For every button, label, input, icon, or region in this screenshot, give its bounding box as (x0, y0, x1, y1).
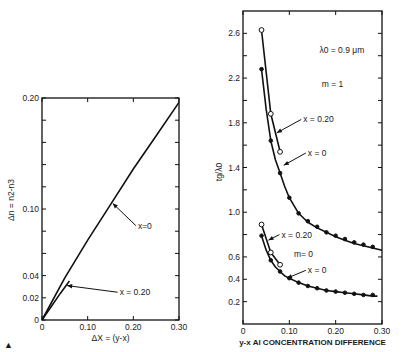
open-circle-marker (268, 111, 273, 116)
figure-marker: ▲ (4, 340, 13, 350)
x-axis-label: ΔX = (y-x) (91, 333, 129, 343)
filled-circle-marker (278, 270, 282, 274)
x-tick-label: 0.30 (374, 326, 391, 336)
annotation-arrow (67, 286, 118, 293)
y-tick-label: 0 (34, 315, 39, 325)
filled-circle-marker (269, 139, 273, 143)
figure-canvas: 00.100.200.3000.020.040.100.20ΔX = (y-x)… (0, 0, 402, 352)
annotation-label: x = 0 (308, 265, 327, 275)
x-tick-label: 0.30 (171, 322, 188, 332)
series-line (262, 69, 383, 250)
annotation-label: x = 0.20 (120, 287, 151, 297)
arrowhead-icon (67, 284, 72, 288)
series-line (42, 281, 69, 320)
y-tick-label: 0.4 (228, 274, 240, 284)
data-series (260, 67, 382, 250)
filled-circle-marker (352, 292, 356, 296)
open-circle-marker (278, 149, 283, 154)
filled-circle-marker (306, 219, 310, 223)
y-axis-label: tg/λ0 (214, 163, 224, 182)
annotation-label: m= 0 (294, 249, 313, 259)
filled-circle-marker (334, 290, 338, 294)
y-tick-label: 0.6 (228, 252, 240, 262)
y-tick-label: 1.4 (228, 163, 240, 173)
right-chart: 00.100.200.300.20.40.61.01.41.82.22.6y-x… (214, 11, 391, 347)
filled-circle-marker (343, 291, 347, 295)
annotation-label: x = 0.20 (281, 230, 312, 240)
filled-circle-marker (260, 67, 264, 71)
filled-circle-marker (278, 171, 282, 175)
x-tick-label: 0.10 (79, 322, 96, 332)
y-tick-label: 2.6 (228, 28, 240, 38)
annotation-label: m = 1 (322, 79, 344, 89)
y-axis-label: Δn = n2-n3 (6, 179, 16, 221)
y-tick-label: 0.10 (22, 204, 39, 214)
filled-circle-marker (371, 245, 375, 249)
y-tick-label: 0.2 (228, 297, 240, 307)
filled-circle-marker (334, 234, 338, 238)
filled-circle-marker (343, 237, 347, 241)
x-tick-label: 0 (40, 322, 45, 332)
filled-circle-marker (269, 258, 273, 262)
y-tick-label: 2.2 (228, 73, 240, 83)
y-tick-label: 1.8 (228, 118, 240, 128)
data-series (42, 281, 69, 320)
filled-circle-marker (352, 241, 356, 245)
filled-circle-marker (315, 225, 319, 229)
y-tick-label: 1.0 (228, 207, 240, 217)
open-circle-marker (268, 250, 273, 255)
left-chart: 00.100.200.3000.020.040.100.20ΔX = (y-x)… (6, 93, 188, 343)
filled-circle-marker (260, 234, 264, 238)
filled-circle-marker (325, 231, 329, 235)
open-circle-marker (278, 262, 283, 267)
annotation-label: x = 0 (308, 148, 327, 158)
filled-circle-marker (297, 212, 301, 216)
filled-circle-marker (362, 293, 366, 297)
x-tick-label: 0.20 (327, 326, 344, 336)
x-tick-label: 0.20 (125, 322, 142, 332)
filled-circle-marker (288, 196, 292, 200)
x-tick-label: 0 (241, 326, 246, 336)
annotation-label: x=0 (138, 221, 152, 231)
open-circle-marker (259, 222, 264, 227)
y-tick-label: 0.20 (22, 93, 39, 103)
filled-circle-marker (306, 284, 310, 288)
x-tick-label: 0.10 (281, 326, 298, 336)
data-series (42, 102, 179, 320)
y-tick-label: 0.04 (22, 271, 39, 281)
annotation-label: x = 0.20 (303, 114, 334, 124)
filled-circle-marker (371, 293, 375, 297)
y-tick-label: 0.02 (22, 293, 39, 303)
series-line (42, 102, 179, 320)
filled-circle-marker (315, 286, 319, 290)
filled-circle-marker (362, 243, 366, 247)
filled-circle-marker (325, 289, 329, 293)
open-circle-marker (259, 28, 264, 33)
x-axis-label: y-x Al CONCENTRATION DIFFERENCE (239, 338, 386, 347)
filled-circle-marker (297, 281, 301, 285)
annotation-label: λ0 = 0.9 μm (319, 45, 364, 55)
